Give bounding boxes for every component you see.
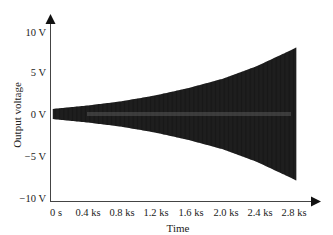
x-tick-2.8: 2.8 ks bbox=[281, 207, 306, 218]
y-tick-labels: 10 V 5 V 0 V −5 V −10 V bbox=[20, 27, 47, 204]
y-axis-label: Output voltage bbox=[11, 82, 23, 148]
y-axis-arrow-icon bbox=[46, 14, 56, 24]
y-tick-5: 5 V bbox=[31, 67, 47, 78]
x-axis-label: Time bbox=[167, 222, 190, 234]
x-tick-0.4: 0.4 ks bbox=[75, 207, 100, 218]
y-tick-0: 0 V bbox=[31, 109, 47, 120]
x-axis-arrow-icon bbox=[311, 197, 321, 207]
x-tick-1.2: 1.2 ks bbox=[143, 207, 168, 218]
x-tick-1.6: 1.6 ks bbox=[178, 207, 203, 218]
x-tick-0: 0 s bbox=[50, 207, 62, 218]
x-tick-labels: 0 s 0.4 ks 0.8 ks 1.2 ks 1.6 ks 2.0 ks 2… bbox=[50, 207, 307, 218]
x-tick-0.8: 0.8 ks bbox=[109, 207, 134, 218]
y-tick-10: 10 V bbox=[25, 27, 46, 38]
y-tick-neg5: −5 V bbox=[25, 151, 47, 162]
x-tick-2.0: 2.0 ks bbox=[213, 207, 238, 218]
y-tick-neg10: −10 V bbox=[20, 193, 47, 204]
signal-waveform bbox=[53, 48, 296, 181]
chart: 10 V 5 V 0 V −5 V −10 V 0 s 0.4 ks 0.8 k… bbox=[0, 0, 333, 235]
x-tick-2.4: 2.4 ks bbox=[247, 207, 272, 218]
